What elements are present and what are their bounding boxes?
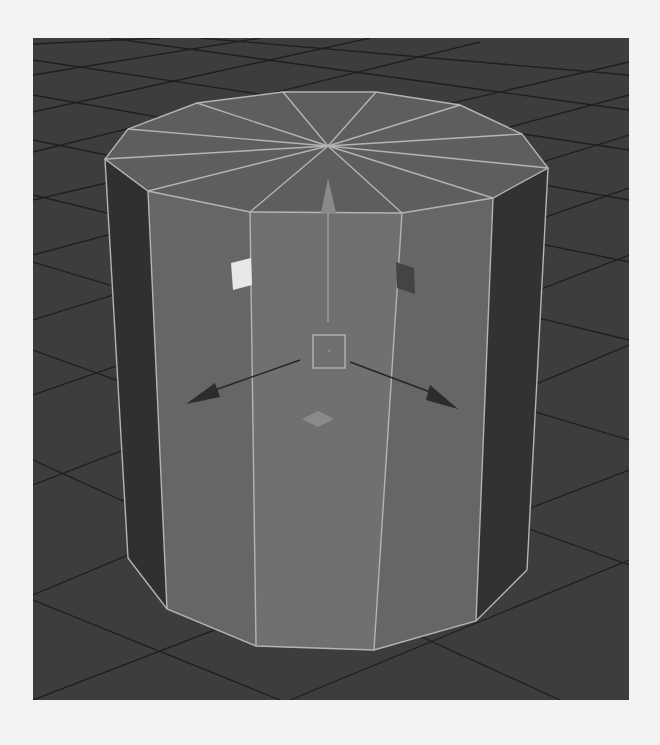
- cylinder[interactable]: [105, 92, 548, 650]
- page: 3D viewport - perspective: [0, 0, 660, 745]
- 3d-viewport[interactable]: 3D viewport - perspective: [33, 38, 629, 700]
- scene-canvas[interactable]: [33, 38, 629, 700]
- center-dot: [328, 350, 330, 352]
- plane-handle-xy[interactable]: [231, 258, 252, 290]
